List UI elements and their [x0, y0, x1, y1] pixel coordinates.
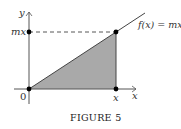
mx-label: mx	[11, 26, 26, 37]
origin-label: 0	[20, 91, 26, 102]
origin-dot	[27, 87, 32, 92]
function-label: f(x) = mx	[137, 19, 181, 30]
y-axis-label: y	[18, 7, 25, 18]
mx-dot	[27, 30, 32, 35]
point-dot	[114, 30, 119, 35]
figure-caption: FIGURE 5	[70, 112, 122, 123]
figure-diagram: y mx f(x) = mx 0 x x FIGURE 5	[0, 0, 181, 129]
x-dot	[114, 87, 119, 92]
x-axis-label: x	[132, 90, 138, 101]
point-x-label: x	[113, 92, 119, 103]
